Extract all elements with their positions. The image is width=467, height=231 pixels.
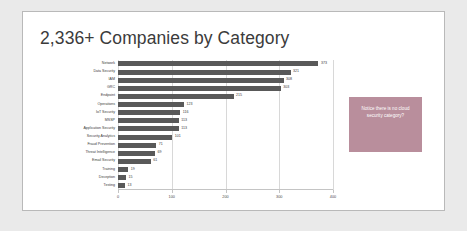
bar-value-label: 61 bbox=[153, 160, 157, 164]
bar-row: Application Security113 bbox=[118, 126, 333, 131]
axis-tick-mark bbox=[172, 190, 173, 193]
bar: 61 bbox=[118, 159, 151, 164]
bar-row: Deception15 bbox=[118, 175, 333, 180]
bar: 303 bbox=[118, 86, 281, 91]
bar: 215 bbox=[118, 94, 234, 99]
bar: 113 bbox=[118, 118, 179, 123]
x-axis-tick-label: 200 bbox=[222, 196, 228, 200]
bar: 69 bbox=[118, 151, 155, 156]
bar-row: Network373 bbox=[118, 61, 333, 66]
category-label: Operations bbox=[97, 103, 115, 107]
slide-card: 2,336+ Companies by Category 01002003004… bbox=[22, 11, 445, 211]
bar: 113 bbox=[118, 126, 179, 131]
bar-row: Fraud Prevention71 bbox=[118, 143, 333, 148]
bar-value-label: 15 bbox=[129, 176, 133, 180]
gridline bbox=[333, 60, 334, 190]
x-axis-tick-label: 300 bbox=[276, 196, 282, 200]
axis-tick-mark bbox=[226, 190, 227, 193]
bar: 308 bbox=[118, 78, 284, 83]
annotation-text: Notice there is no cloud security catego… bbox=[357, 106, 415, 120]
bar-value-label: 303 bbox=[283, 87, 289, 91]
plot-area: 0100200300400Network373Data Security321I… bbox=[118, 60, 333, 190]
bar: 15 bbox=[118, 175, 126, 180]
bar-row: GRC303 bbox=[118, 86, 333, 91]
bar-value-label: 101 bbox=[175, 135, 181, 139]
page-title: 2,336+ Companies by Category bbox=[40, 28, 289, 49]
bar-value-label: 69 bbox=[158, 152, 162, 156]
bar-value-label: 321 bbox=[293, 70, 299, 74]
category-label: Data Security bbox=[93, 70, 115, 74]
category-label: Training bbox=[102, 168, 115, 172]
category-label: Email Security bbox=[92, 160, 115, 164]
category-label: Fraud Prevention bbox=[87, 143, 115, 147]
bar-row: Email Security61 bbox=[118, 159, 333, 164]
bar-row: Threat Intelligence69 bbox=[118, 151, 333, 156]
bar-value-label: 113 bbox=[181, 119, 187, 123]
category-label: MSSP bbox=[105, 119, 115, 123]
bar-row: IoT Security116 bbox=[118, 110, 333, 115]
bar: 19 bbox=[118, 167, 128, 172]
bar: 13 bbox=[118, 183, 125, 188]
bar-row: MSSP113 bbox=[118, 118, 333, 123]
axis-tick-mark bbox=[279, 190, 280, 193]
x-axis-tick-label: 400 bbox=[330, 196, 336, 200]
bar-chart: 0100200300400Network373Data Security321I… bbox=[31, 58, 341, 206]
bar-row: Security Analytics101 bbox=[118, 135, 333, 140]
bar-row: IAM308 bbox=[118, 78, 333, 83]
bar: 373 bbox=[118, 61, 318, 66]
bar-value-label: 19 bbox=[131, 168, 135, 172]
x-axis-line bbox=[118, 189, 333, 190]
category-label: Testing bbox=[104, 184, 115, 188]
axis-tick-mark bbox=[118, 190, 119, 193]
bar-value-label: 71 bbox=[159, 143, 163, 147]
axis-tick-mark bbox=[333, 190, 334, 193]
category-label: Security Analytics bbox=[87, 135, 115, 139]
bar: 101 bbox=[118, 135, 172, 140]
bar: 116 bbox=[118, 110, 180, 115]
bar: 71 bbox=[118, 143, 156, 148]
bar: 123 bbox=[118, 102, 184, 107]
category-label: Network bbox=[102, 62, 115, 66]
annotation-callout: Notice there is no cloud security catego… bbox=[349, 97, 422, 152]
bar-value-label: 13 bbox=[127, 184, 131, 188]
bar-value-label: 116 bbox=[183, 111, 189, 115]
bar: 321 bbox=[118, 70, 291, 75]
bar-row: Training19 bbox=[118, 167, 333, 172]
category-label: Threat Intelligence bbox=[85, 152, 115, 156]
category-label: GRC bbox=[107, 87, 115, 91]
bar-row: Testing13 bbox=[118, 183, 333, 188]
bar-row: Operations123 bbox=[118, 102, 333, 107]
x-axis-tick-label: 0 bbox=[117, 196, 119, 200]
bar-value-label: 373 bbox=[321, 62, 327, 66]
x-axis-tick-label: 100 bbox=[169, 196, 175, 200]
category-label: Endpoint bbox=[101, 95, 115, 99]
category-label: IAM bbox=[109, 78, 115, 82]
bar-value-label: 308 bbox=[286, 78, 292, 82]
bar-value-label: 123 bbox=[187, 103, 193, 107]
category-label: IoT Security bbox=[96, 111, 115, 115]
bar-value-label: 215 bbox=[236, 95, 242, 99]
category-label: Deception bbox=[99, 176, 115, 180]
category-label: Application Security bbox=[83, 127, 115, 131]
bar-row: Endpoint215 bbox=[118, 94, 333, 99]
bar-row: Data Security321 bbox=[118, 70, 333, 75]
bar-value-label: 113 bbox=[181, 127, 187, 131]
